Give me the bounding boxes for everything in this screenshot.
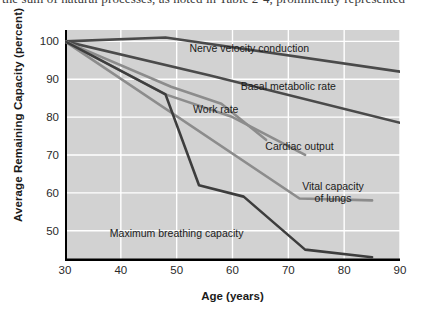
x-axis-tick-label: 60	[218, 264, 248, 276]
y-axis-tick-label: 50	[33, 225, 59, 237]
series-line	[65, 41, 305, 155]
x-axis-tick-label: 90	[385, 264, 415, 276]
series-label: Maximum breathing capacity	[110, 229, 244, 241]
x-axis-tick-label: 50	[162, 264, 192, 276]
series-label: Vital capacityof lungs	[302, 181, 364, 205]
y-axis-tick-labels: 5060708090100	[30, 12, 59, 272]
x-axis-tick-label: 80	[329, 264, 359, 276]
y-axis-title: Average Remaining Capacity (percent)	[12, 22, 24, 222]
y-axis-tick-label: 90	[33, 73, 59, 85]
series-label: Nerve velocity conduction	[189, 43, 309, 55]
y-axis-tick-label: 80	[33, 111, 59, 123]
x-axis-tick-labels: 30405060708090	[0, 264, 423, 284]
x-axis-tick-label: 30	[50, 264, 80, 276]
clipped-body-text: the sum of natural processes, as noted i…	[0, 0, 423, 12]
x-axis-tick-label: 70	[273, 264, 303, 276]
x-axis-title: Age (years)	[65, 290, 400, 302]
y-axis-tick-label: 60	[33, 187, 59, 199]
y-axis-tick-label: 100	[33, 35, 59, 47]
plot-area: Nerve velocity conductionBasal metabolic…	[65, 30, 400, 261]
chart-svg	[65, 30, 400, 261]
chart-figure: Average Remaining Capacity (percent) 506…	[0, 12, 423, 310]
x-axis-tick-label: 40	[106, 264, 136, 276]
series-label: Cardiac output	[265, 142, 333, 154]
series-label: Basal metabolic rate	[241, 81, 336, 93]
series-label: Work rate	[193, 104, 238, 116]
clipped-body-text-line: the sum of natural processes, as noted i…	[2, 0, 405, 7]
y-axis-tick-label: 70	[33, 149, 59, 161]
